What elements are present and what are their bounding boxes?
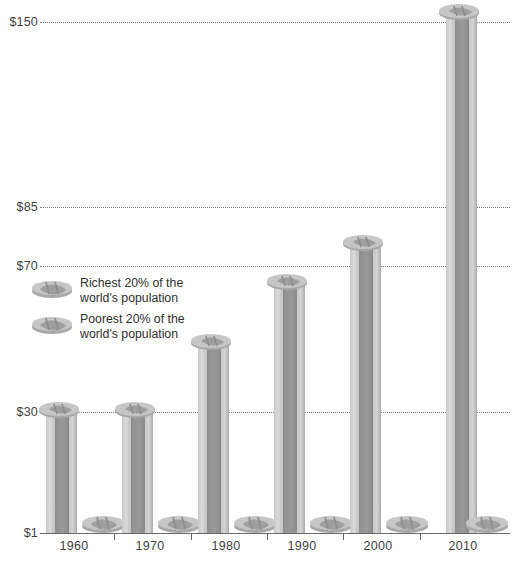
dollar-coin-icon-poorest-1960[interactable] xyxy=(80,512,126,534)
dollar-coin-icon xyxy=(437,1,481,21)
legend-label-poorest: Poorest 20% of the world's population xyxy=(80,312,185,341)
bar-richest-2010[interactable] xyxy=(446,14,477,533)
legend-label-richest-line2: world's population xyxy=(80,291,183,306)
y-tick-label-150: $150 xyxy=(0,15,38,29)
bar-face-front xyxy=(55,412,69,533)
x-tick-label-2010: 2010 xyxy=(428,539,498,553)
bar-face-front xyxy=(359,245,373,533)
dollar-coin-icon-poorest-2000[interactable] xyxy=(384,512,430,534)
bar-face-right xyxy=(297,284,305,533)
dollar-coin-icon xyxy=(113,399,157,419)
x-tick-5 xyxy=(420,533,421,540)
legend-label-poorest-line2: world's population xyxy=(80,327,185,342)
gridline-70 xyxy=(40,266,510,267)
bar-richest-1960[interactable] xyxy=(46,412,77,533)
dollar-coin-icon xyxy=(341,232,385,252)
bar-richest-1970[interactable] xyxy=(122,412,153,533)
bar-face-right xyxy=(469,14,477,533)
bar-face-right xyxy=(221,344,229,533)
bar-face-left xyxy=(46,412,55,533)
y-tick-label-1: $1 xyxy=(0,526,38,540)
bar-face-right xyxy=(373,245,381,533)
bar-richest-2000[interactable] xyxy=(350,245,381,533)
dollar-coin-icon xyxy=(265,271,309,291)
legend: Richest 20% of the world's population Po… xyxy=(30,276,220,348)
x-tick-label-1970: 1970 xyxy=(115,539,185,553)
bar-chart: $150 $85 $70 $30 $1 xyxy=(0,0,516,561)
legend-item-poorest[interactable]: Poorest 20% of the world's population xyxy=(30,312,220,341)
bar-face-left xyxy=(446,14,455,533)
x-tick-label-1980: 1980 xyxy=(191,539,261,553)
bar-face-left xyxy=(274,284,283,533)
gridline-85 xyxy=(40,207,510,208)
bar-face-right xyxy=(145,412,153,533)
bar-face-front xyxy=(283,284,297,533)
dollar-coin-icon xyxy=(30,313,74,335)
bar-face-left xyxy=(350,245,359,533)
legend-label-richest: Richest 20% of the world's population xyxy=(80,276,183,305)
legend-label-richest-line1: Richest 20% of the xyxy=(80,276,183,290)
y-tick-label-70: $70 xyxy=(0,259,38,273)
dollar-coin-icon xyxy=(30,277,74,299)
dollar-coin-icon-poorest-1990[interactable] xyxy=(308,512,354,534)
bar-face-left xyxy=(122,412,131,533)
bar-richest-1980[interactable] xyxy=(198,344,229,533)
dollar-coin-icon-poorest-1980[interactable] xyxy=(232,512,278,534)
bar-face-front xyxy=(207,344,221,533)
dollar-coin-icon-poorest-1970[interactable] xyxy=(156,512,202,534)
bar-face-left xyxy=(198,344,207,533)
dollar-coin-icon xyxy=(37,399,81,419)
gridline-150 xyxy=(40,22,510,23)
bar-richest-1990[interactable] xyxy=(274,284,305,533)
bar-face-front xyxy=(131,412,145,533)
x-tick-label-2000: 2000 xyxy=(343,539,413,553)
dollar-coin-icon-poorest-2010[interactable] xyxy=(464,512,510,534)
y-tick-label-30: $30 xyxy=(0,405,38,419)
legend-label-poorest-line1: Poorest 20% of the xyxy=(80,312,185,326)
x-tick-label-1960: 1960 xyxy=(39,539,109,553)
x-tick-label-1990: 1990 xyxy=(267,539,337,553)
bar-face-front xyxy=(455,14,469,533)
y-tick-label-85: $85 xyxy=(0,200,38,214)
legend-item-richest[interactable]: Richest 20% of the world's population xyxy=(30,276,220,305)
bar-face-right xyxy=(69,412,77,533)
